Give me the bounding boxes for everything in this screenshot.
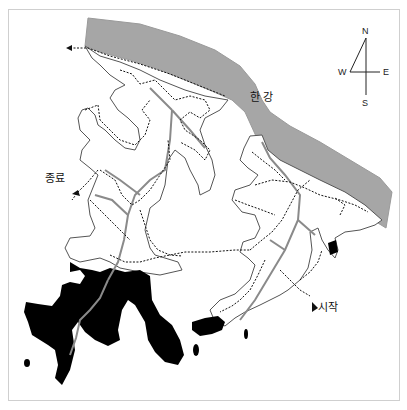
river-label: 한 강: [250, 92, 274, 103]
compass-rose: [350, 38, 380, 95]
dark-islet-1: [24, 359, 30, 367]
compass-s: S: [362, 99, 368, 108]
trail-map: [0, 0, 407, 410]
dark-area-southeast: [192, 316, 225, 336]
exit-arrow-northwest: [66, 45, 72, 51]
dark-area-southwest: [24, 262, 184, 385]
compass-n: N: [362, 27, 369, 36]
compass-w: W: [338, 68, 347, 77]
start-label: 시작: [318, 302, 338, 313]
compass-e: E: [383, 68, 389, 77]
dark-islet-2: [193, 344, 199, 356]
dark-islet-3: [244, 329, 248, 339]
end-label: 종료: [45, 173, 65, 184]
